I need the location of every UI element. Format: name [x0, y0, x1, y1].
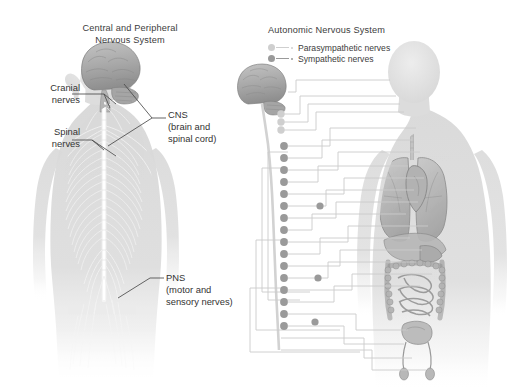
parasympathetic-node — [277, 110, 284, 117]
sympathetic-node — [280, 298, 288, 306]
sympathetic-node — [280, 238, 288, 246]
annotation-cranial-nerves: Cranial nerves — [18, 82, 80, 106]
legend-connector-line — [276, 58, 289, 59]
left-panel-title: Central and Peripheral Nervous System — [40, 22, 220, 47]
sympathetic-dot-icon — [268, 55, 275, 62]
parasympathetic-node — [277, 118, 284, 125]
legend-label-sympathetic: Sympathetic nerves — [298, 54, 373, 64]
parasympathetic-dot-icon — [268, 44, 275, 51]
sympathetic-node — [280, 262, 288, 270]
legend-terminal-dot-icon — [291, 47, 293, 49]
ganglion-chain — [277, 110, 288, 330]
sympathetic-node — [280, 190, 288, 198]
prevertebral-ganglia — [311, 202, 323, 325]
sympathetic-node — [280, 286, 288, 294]
sympathetic-node — [280, 154, 288, 162]
legend-connector-line — [276, 47, 289, 48]
anatomy-artwork — [0, 0, 512, 391]
sympathetic-node — [280, 214, 288, 222]
annotation-pns: PNS (motor and sensory nerves) — [166, 272, 262, 309]
legend-terminal-dot-icon — [291, 58, 293, 60]
legend-item-sympathetic: Sympathetic nerves — [268, 53, 373, 64]
legend-item-parasympathetic: Parasympathetic nerves — [268, 42, 390, 53]
sympathetic-node — [280, 202, 288, 210]
illustration-canvas: Central and Peripheral Nervous System Au… — [0, 0, 512, 391]
sympathetic-node — [280, 142, 288, 150]
sympathetic-node — [280, 274, 288, 282]
right-panel-title: Autonomic Nervous System — [268, 24, 468, 36]
annotation-cns: CNS (brain and spinal cord) — [168, 109, 252, 146]
sympathetic-node — [280, 166, 288, 174]
annotation-spinal-nerves: Spinal nerves — [18, 126, 80, 150]
parasympathetic-node — [277, 126, 284, 133]
legend-label-parasympathetic: Parasympathetic nerves — [298, 43, 390, 53]
sympathetic-node — [280, 178, 288, 186]
sympathetic-node — [280, 226, 288, 234]
sympathetic-node — [280, 250, 288, 258]
sympathetic-node — [280, 310, 288, 318]
sympathetic-node — [280, 322, 288, 330]
